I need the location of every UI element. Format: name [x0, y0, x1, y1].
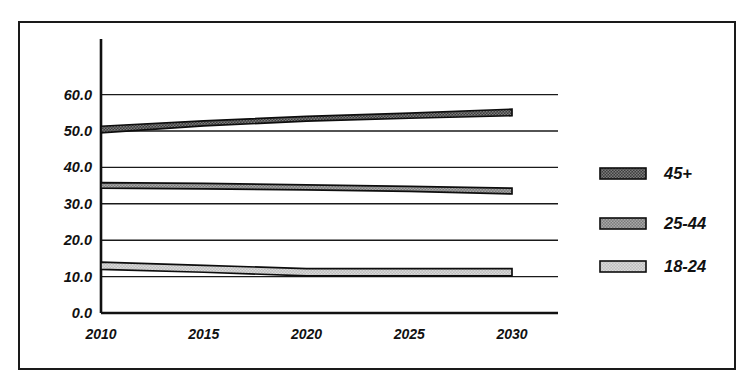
y-tick-label: 20.0	[63, 232, 92, 248]
legend-label: 18-24	[664, 257, 706, 275]
x-tick-label: 2025	[393, 326, 425, 342]
legend-swatch-18-24	[600, 261, 646, 272]
y-tick-label: 60.0	[64, 87, 92, 103]
x-tick-label: 2020	[290, 326, 322, 342]
y-tick-label: 30.0	[64, 196, 92, 212]
legend-swatch-25-44	[600, 218, 646, 229]
y-tick-label: 40.0	[63, 159, 92, 175]
x-tick-labels-group: 20102015202020252030	[84, 326, 527, 342]
chart-figure: 0.010.020.030.040.050.060.0 201020152020…	[0, 0, 751, 386]
y-tick-label: 0.0	[72, 305, 92, 321]
y-tick-label: 10.0	[64, 269, 92, 285]
x-tick-label: 2015	[187, 326, 219, 342]
data-band-45-	[101, 109, 512, 133]
legend: 45+25-4418-24	[600, 164, 706, 275]
x-tick-label: 2010	[84, 326, 116, 342]
legend-label: 45+	[663, 164, 692, 182]
x-tick-label: 2030	[495, 326, 527, 342]
data-band-18-24	[101, 262, 512, 276]
data-bands-group	[101, 109, 512, 276]
chart-plot-area: 0.010.020.030.040.050.060.0 201020152020…	[0, 0, 751, 386]
data-band-25-44	[101, 183, 512, 194]
y-tick-labels-group: 0.010.020.030.040.050.060.0	[63, 87, 92, 321]
legend-label: 25-44	[663, 214, 706, 232]
y-tick-label: 50.0	[64, 123, 92, 139]
legend-swatch-45-plus	[600, 168, 646, 179]
